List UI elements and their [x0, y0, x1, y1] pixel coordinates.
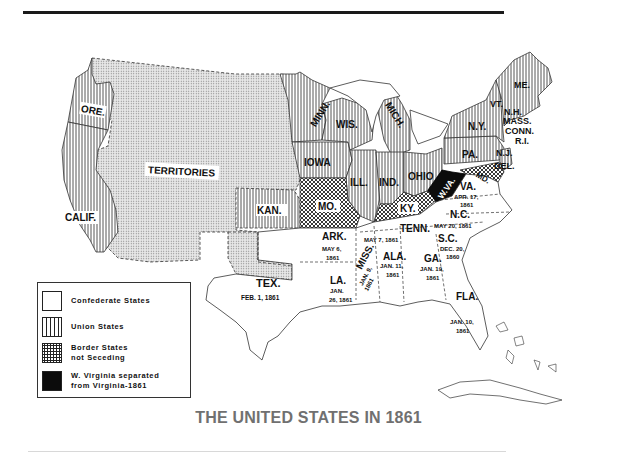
border-swatch-icon [42, 343, 62, 363]
label-nj: N.J. [496, 148, 513, 158]
legend-label-wv-2: from Virginia-1861 [71, 381, 159, 391]
label-sc-date2: 1860 [446, 254, 460, 260]
label-tex-date: FEB. 1, 1861 [241, 294, 280, 302]
label-ark: ARK. [322, 231, 347, 242]
label-la-date1: JAN. [330, 288, 344, 294]
label-del: DEL. [494, 161, 515, 171]
label-me: ME. [514, 80, 530, 90]
wv-swatch-icon [42, 371, 62, 391]
label-la-date2: 26, 1861 [329, 297, 353, 303]
legend-item-wv: W. Virginia separated from Virginia-1861 [42, 371, 159, 391]
label-ny: N.Y. [468, 121, 487, 132]
label-ark-date2: 1861 [326, 255, 340, 261]
confederate-swatch-icon [42, 291, 62, 311]
label-tex: TEX. [256, 277, 280, 289]
newyork-region [444, 80, 504, 142]
label-sc: S.C. [438, 233, 458, 244]
label-conn: CONN. [505, 126, 534, 136]
cuba-outline [438, 380, 562, 404]
legend-item-border: Border States not Seceding [42, 343, 128, 363]
label-ala: ALA. [383, 251, 407, 262]
legend-label-confederate: Confederate States [71, 296, 150, 306]
label-pa: PA. [462, 149, 478, 160]
label-fla-date1: JAN. 10, [450, 319, 474, 325]
label-va-date1: APR. 17, [454, 194, 479, 200]
legend-label-border-2: not Seceding [71, 353, 128, 363]
label-fla: FLA. [456, 291, 478, 302]
label-ky: KY. [400, 203, 416, 214]
bahamas-outline [496, 322, 556, 372]
label-ga-date1: JAN. 19, [420, 266, 444, 272]
label-tenn-date: MAY 7, 1861 [364, 237, 399, 243]
label-ga-date2: 1861 [426, 275, 440, 281]
label-tenn: TENN. [400, 223, 430, 234]
label-ind: IND. [379, 177, 399, 188]
label-fla-date2: 1861 [456, 328, 470, 334]
label-sc-date1: DEC. 20, [440, 246, 465, 252]
label-ala-date1: JAN. 11, [380, 263, 404, 269]
union-swatch-icon [42, 317, 62, 337]
label-ri: R.I. [515, 136, 529, 146]
map-title: THE UNITED STATES IN 1861 [0, 409, 617, 427]
label-wis: WIS. [336, 119, 358, 130]
label-nc-date: MAY 20, 1861 [434, 223, 472, 229]
legend-label-border-1: Border States [71, 343, 128, 353]
label-nc: N.C. [450, 209, 470, 220]
label-ala-date2: 1861 [386, 272, 400, 278]
label-ark-date1: MAY 6, [322, 246, 342, 252]
label-mo: MO. [318, 201, 337, 212]
label-ohio: OHIO [408, 171, 434, 182]
legend-item-confederate: Confederate States [42, 291, 150, 311]
label-iowa: IOWA [304, 157, 331, 168]
label-mass: MASS. [503, 116, 532, 126]
label-la: LA. [330, 275, 346, 286]
legend-label-union: Union States [71, 322, 124, 332]
label-ill: ILL. [350, 177, 368, 188]
label-calif: CALIF. [65, 212, 96, 223]
label-ga: GA. [424, 253, 442, 264]
map-legend: Confederate States Union States Border S… [37, 282, 191, 398]
label-vt: VT. [490, 99, 503, 109]
label-va: VA. [460, 181, 476, 192]
label-kan: KAN. [257, 205, 282, 216]
label-va-date2: 1861 [460, 202, 474, 208]
legend-label-wv-1: W. Virginia separated [71, 371, 159, 381]
legend-item-union: Union States [42, 317, 124, 337]
